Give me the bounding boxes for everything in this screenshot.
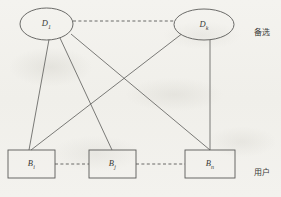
layer-label-candidates: 备选 <box>254 26 271 37</box>
layer-label-users: 用户 <box>254 166 271 177</box>
node-label-bi: Bi <box>28 158 35 170</box>
edge-group <box>29 34 210 150</box>
edge-d1-bn <box>71 34 210 150</box>
edge-dk-bi <box>31 35 181 151</box>
ellipsis-connector-group <box>55 21 185 164</box>
node-label-d1: D1 <box>42 18 52 30</box>
node-label-dk: Dk <box>199 19 208 31</box>
figure-canvas: D1 Dk Bi Bj Bn 备选 用户 <box>0 0 281 197</box>
node-label-bn: Bn <box>206 158 215 170</box>
edge-d1-bi <box>29 40 49 151</box>
user-node-group <box>8 150 235 178</box>
node-label-bj: Bj <box>109 158 116 170</box>
